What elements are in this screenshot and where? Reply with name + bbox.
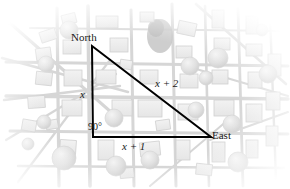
label-hypotenuse: x + 2	[155, 78, 178, 89]
label-right-angle: 90°	[88, 122, 102, 132]
label-east: East	[212, 130, 231, 141]
city-map-background	[0, 0, 290, 189]
figure-canvas: North East 90° x x + 1 x + 2	[0, 0, 290, 189]
label-leg-vertical: x	[80, 89, 85, 100]
label-north: North	[71, 32, 97, 43]
label-leg-horizontal: x + 1	[122, 141, 145, 152]
